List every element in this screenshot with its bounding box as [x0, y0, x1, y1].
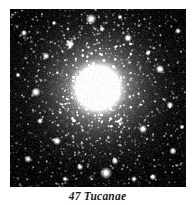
star-cluster-image-plate — [10, 9, 186, 187]
star-field-canvas — [10, 9, 186, 187]
figure-47-tucanae: 47 Tucanae — [0, 0, 195, 205]
figure-caption: 47 Tucanae — [0, 189, 195, 203]
